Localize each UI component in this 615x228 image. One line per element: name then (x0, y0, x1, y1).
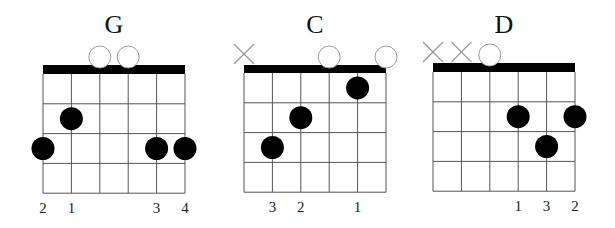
finger-dot (289, 106, 312, 129)
finger-number-label: 3 (147, 200, 167, 217)
finger-dot (60, 107, 83, 130)
finger-dot (145, 137, 168, 160)
muted-string-icon (234, 44, 254, 64)
chord-diagram-c: C 321 (201, 0, 406, 228)
finger-dot (507, 105, 530, 128)
open-string-icon (479, 44, 501, 66)
nut (43, 65, 185, 74)
chord-diagram-d: D 132 (390, 0, 595, 228)
finger-dot (32, 137, 55, 160)
finger-number-label: 2 (33, 200, 53, 217)
chord-diagram-g: G 2134 (0, 0, 205, 228)
finger-number-label: 2 (291, 199, 311, 216)
finger-number-label: 1 (61, 200, 81, 217)
finger-number-label: 1 (508, 198, 528, 215)
open-string-icon (318, 46, 340, 68)
fretboard-grid (201, 0, 406, 228)
finger-number-label: 2 (565, 198, 585, 215)
finger-number-label: 3 (262, 199, 282, 216)
muted-string-icon (451, 42, 471, 62)
nut (244, 65, 386, 73)
finger-dot (535, 135, 558, 158)
open-string-icon (117, 46, 139, 68)
muted-string-icon (423, 42, 443, 62)
finger-dot (564, 105, 587, 128)
finger-dot (174, 137, 197, 160)
finger-number-label: 3 (537, 198, 557, 215)
finger-dot (261, 136, 284, 159)
nut (433, 63, 575, 72)
finger-number-label: 4 (175, 200, 195, 217)
finger-dot (346, 76, 369, 99)
fretboard-grid (0, 0, 205, 228)
open-string-icon (89, 46, 111, 68)
fretboard-grid (390, 0, 595, 228)
finger-number-label: 1 (348, 199, 368, 216)
